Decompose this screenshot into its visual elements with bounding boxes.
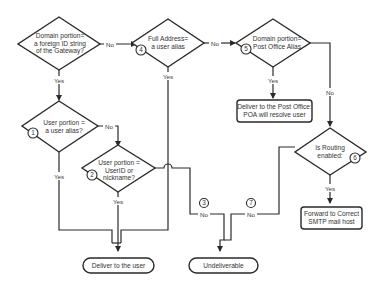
svg-text:7: 7 (249, 199, 253, 206)
svg-text:6: 6 (353, 154, 357, 161)
svg-text:Deliver to the user: Deliver to the user (92, 262, 146, 269)
svg-text:Post Office Alias: Post Office Alias (253, 43, 302, 50)
decision-user-alias: User portion = a user alias? 1 (22, 101, 98, 152)
edge-d6-no: No 7 (224, 147, 295, 240)
svg-text:Full Address=: Full Address= (148, 35, 188, 42)
svg-text:Undeliverable: Undeliverable (203, 262, 244, 269)
terminal-deliver-to-user: Deliver to the user (83, 258, 154, 273)
svg-text:a user alias?: a user alias? (45, 127, 83, 134)
svg-text:POA will resolve user: POA will resolve user (243, 111, 306, 118)
svg-text:Yes: Yes (325, 185, 335, 192)
decision-full-address: Full Address= a user alias 4 (132, 19, 204, 67)
svg-text:1: 1 (31, 129, 35, 136)
process-forward-smtp: Forward to Correct SMTP mail host (301, 207, 362, 229)
svg-text:2: 2 (90, 171, 94, 178)
decision-userid-nickname: User portion = UserID or nickname? 2 (82, 145, 155, 192)
svg-text:Yes: Yes (113, 198, 123, 205)
flowchart: No Yes No Yes Yes No No Yes (0, 0, 385, 288)
svg-text:of the Gateway?: of the Gateway? (36, 47, 84, 55)
svg-text:SMTP mail host: SMTP mail host (308, 218, 355, 225)
svg-text:No: No (200, 211, 208, 218)
edge-d5-no: No (310, 43, 336, 126)
process-deliver-post-office: Deliver to the Post Office: POA will res… (237, 100, 312, 122)
svg-text:No: No (106, 41, 114, 48)
edge-d0-no: No (100, 40, 136, 48)
svg-text:No: No (326, 89, 334, 96)
svg-text:Yes: Yes (163, 73, 173, 80)
svg-text:No: No (247, 211, 255, 218)
svg-text:UserID or: UserID or (105, 167, 134, 174)
edge-d2-no: No 3 (155, 164, 224, 251)
decision-routing-enabled: Is Routing enabled: 6 (295, 128, 366, 175)
edge-d6-yes: Yes (323, 175, 337, 203)
edge-d4-no: No (204, 39, 235, 47)
edge-d0-yes: Yes (52, 70, 66, 100)
svg-text:Yes: Yes (54, 173, 64, 180)
svg-text:No: No (105, 123, 113, 130)
svg-text:4: 4 (139, 46, 143, 53)
terminal-undeliverable: Undeliverable (189, 258, 258, 273)
svg-text:Yes: Yes (54, 77, 64, 84)
svg-text:a user alias: a user alias (151, 43, 185, 50)
svg-text:No: No (211, 40, 219, 47)
decision-post-office-alias: Domain portion= Post Office Alias 5 (236, 19, 310, 67)
edge-d2-yes: Yes (111, 192, 125, 251)
decision-foreign-id: Domain portion= a foreign ID string of t… (18, 17, 100, 70)
svg-text:5: 5 (244, 45, 248, 52)
svg-text:nickname?: nickname? (103, 174, 135, 181)
svg-text:enabled:: enabled: (317, 152, 342, 159)
svg-text:Deliver to the Post Office:: Deliver to the Post Office: (237, 103, 312, 110)
svg-text:Yes: Yes (268, 77, 278, 84)
svg-text:3: 3 (202, 199, 206, 206)
edge-d1-no: No (98, 122, 118, 146)
svg-text:Forward to Correct: Forward to Correct (304, 210, 359, 217)
edge-d5-yes: Yes (266, 67, 280, 98)
